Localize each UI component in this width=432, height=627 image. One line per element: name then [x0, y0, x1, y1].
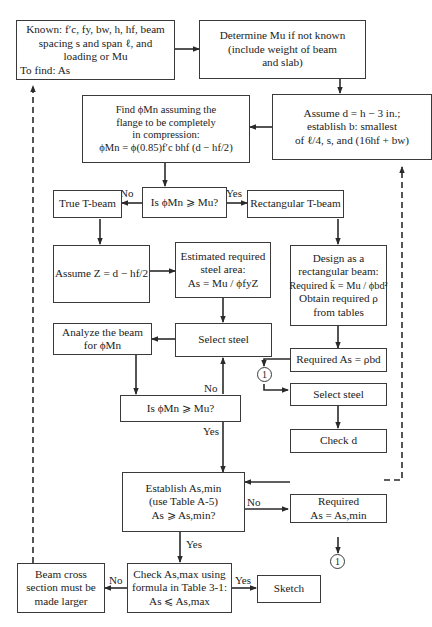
analyze-beam-line-1: Analyze the beam	[62, 326, 143, 340]
select-steel-box-2: Select steel	[290, 383, 387, 406]
known-line-2: spacing s and span ℓ, and	[39, 37, 152, 51]
required-as-text: Required As = ρbd	[296, 353, 380, 367]
true-tbeam-box: True T-beam	[53, 190, 122, 218]
check-d-text: Check d	[320, 434, 357, 448]
check-asmax-line-1: Check As,max using	[133, 568, 225, 582]
assume-d-box: Assume d = h − 3 in.; establish b: small…	[272, 94, 432, 160]
known-line-3: loading or Mu	[63, 50, 127, 64]
design-rect-k-formula: Required k̄ = Mu / ϕbd²	[289, 279, 387, 293]
true-tbeam-text: True T-beam	[59, 197, 116, 211]
select-steel-box-1: Select steel	[175, 323, 272, 357]
establish-asmin-line-1: Establish As,min	[146, 482, 222, 496]
find-phi-mn-line-2: flange to be completely	[116, 117, 216, 130]
find-phi-mn-line-1: Find ϕMn assuming the	[116, 104, 217, 117]
known-line-1: Known: f′c, fy, bw, h, hf, beam	[26, 23, 165, 37]
check-asmax-line-3: As ⩽ As,max	[149, 595, 210, 609]
decision-2-no-label: No	[204, 382, 217, 394]
decision-1-yes-label: Yes	[226, 187, 242, 199]
required-asmin-line-2: As = As,min	[310, 509, 366, 523]
rect-tbeam-text: Rectangular T-beam	[250, 197, 340, 211]
decision-1-text: Is ϕMn ⩾ Mu?	[151, 196, 218, 210]
assume-z-box: Assume Z = d − hf/2	[53, 245, 150, 303]
sketch-text: Sketch	[274, 582, 304, 596]
check-asmax-box: Check As,max using formula in Table 3-1:…	[127, 563, 232, 613]
establish-asmin-line-2: (use Table A-5)	[149, 495, 218, 509]
design-rect-line-4: Obtain required ρ	[299, 292, 378, 306]
find-phi-mn-line-3: in compression:	[132, 129, 199, 142]
check-d-box: Check d	[290, 429, 387, 453]
assume-z-formula: Assume Z = d − hf/2	[55, 267, 148, 281]
decision-phi-mn-2: Is ϕMn ⩾ Mu?	[120, 395, 241, 422]
est-steel-formula: As = Mu / ϕfyZ	[188, 277, 259, 291]
known-inputs-box: Known: f′c, fy, bw, h, hf, beam spacing …	[16, 20, 175, 80]
select-steel-1-text: Select steel	[198, 333, 249, 347]
check-asmax-line-2: formula in Table 3-1:	[132, 581, 227, 595]
find-phi-mn-box: Find ϕMn assuming the flange to be compl…	[82, 95, 250, 163]
select-steel-2-text: Select steel	[313, 388, 364, 402]
beam-larger-box: Beam cross section must be made larger	[17, 563, 105, 613]
assume-d-line-2: establish b: smallest	[307, 120, 397, 134]
est-steel-line-2: steel area:	[200, 263, 245, 277]
determine-mu-line-2: (include weight of beam	[228, 43, 337, 57]
rect-tbeam-box: Rectangular T-beam	[247, 190, 344, 218]
asmin-yes-label: Yes	[186, 538, 202, 550]
estimated-steel-box: Estimated required steel area: As = Mu /…	[175, 242, 271, 298]
beam-larger-line-3: made larger	[35, 595, 88, 609]
required-as-box: Required As = ρbd	[290, 348, 387, 372]
establish-asmin-question: As ⩾ As,min?	[151, 509, 215, 523]
decision-phi-mn-1: Is ϕMn ⩾ Mu?	[142, 187, 227, 218]
determine-mu-line-1: Determine Mu if not known	[220, 29, 346, 43]
beam-larger-line-1: Beam cross	[35, 568, 87, 582]
design-rect-line-2: rectangular beam:	[298, 265, 378, 279]
assume-d-line-3: of ℓ/4, s, and (16hf + bw)	[295, 134, 409, 148]
est-steel-line-1: Estimated required	[181, 250, 266, 264]
design-rect-line-1: Design as a	[313, 252, 365, 266]
asmax-no-label: No	[109, 574, 122, 586]
connector-1-bottom: 1	[330, 554, 345, 569]
assume-d-line-1: Assume d = h − 3 in.;	[304, 107, 401, 121]
asmin-no-label: No	[247, 496, 260, 508]
connector-1-top: 1	[257, 367, 272, 382]
establish-asmin-box: Establish As,min (use Table A-5) As ⩾ As…	[122, 472, 245, 532]
design-rect-line-5: from tables	[313, 306, 364, 320]
analyze-beam-line-2: for ϕMn	[84, 339, 121, 353]
beam-larger-line-2: section must be	[26, 581, 96, 595]
determine-mu-line-3: and slab)	[262, 56, 303, 70]
phi-mn-formula: ϕMn = ϕ(0.85)f′c bhf (d − hf/2)	[99, 142, 232, 155]
to-find-line: To find: As	[20, 64, 70, 78]
analyze-beam-box: Analyze the beam for ϕMn	[53, 323, 152, 355]
decision-1-no-label: No	[120, 187, 133, 199]
required-asmin-line-1: Required	[318, 495, 359, 509]
determine-mu-box: Determine Mu if not known (include weigh…	[199, 20, 366, 79]
asmax-yes-label: Yes	[235, 574, 251, 586]
design-rect-beam-box: Design as a rectangular beam: Required k…	[290, 245, 387, 326]
sketch-box: Sketch	[257, 575, 321, 603]
decision-2-text: Is ϕMn ⩾ Mu?	[147, 402, 214, 416]
decision-2-yes-label: Yes	[203, 425, 219, 437]
required-asmin-box: Required As = As,min	[290, 494, 387, 523]
